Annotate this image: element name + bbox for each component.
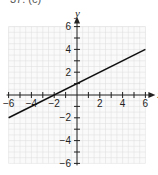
svg-text:4: 4 (120, 98, 126, 109)
svg-text:−6: −6 (60, 158, 72, 169)
inequality-graph: −6−4−2246−6−4−2246xy (0, 0, 158, 175)
svg-text:2: 2 (65, 67, 71, 78)
svg-text:6: 6 (65, 21, 71, 32)
svg-text:x: x (156, 88, 158, 100)
svg-text:−6: −6 (3, 98, 15, 109)
svg-text:2: 2 (97, 98, 103, 109)
svg-text:4: 4 (65, 44, 71, 55)
svg-text:y: y (74, 7, 80, 19)
svg-text:−2: −2 (48, 98, 60, 109)
svg-text:−2: −2 (60, 112, 72, 123)
svg-text:−4: −4 (60, 135, 72, 146)
svg-text:6: 6 (143, 98, 149, 109)
